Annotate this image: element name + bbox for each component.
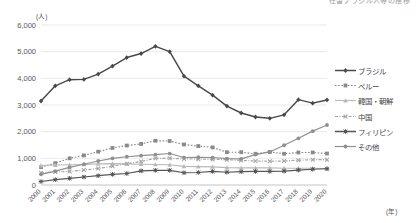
svg-text:2006: 2006 bbox=[112, 188, 128, 204]
legend-label: 中国 bbox=[358, 111, 372, 122]
svg-text:2016: 2016 bbox=[255, 188, 271, 204]
legend-label: その他 bbox=[358, 141, 379, 152]
chart-page: 在留ブラジル人等の推移 (人) (年) 01,0002,0003,0004,00… bbox=[0, 0, 416, 223]
svg-text:2019: 2019 bbox=[298, 188, 314, 204]
legend-marker-cross-icon bbox=[334, 111, 357, 122]
legend-marker-square-icon bbox=[334, 80, 357, 91]
legend-marker-diamond-icon bbox=[334, 65, 357, 76]
svg-text:1,000: 1,000 bbox=[17, 154, 36, 163]
series-1 bbox=[39, 44, 329, 121]
svg-text:2010: 2010 bbox=[169, 188, 185, 204]
legend-marker-triangle-icon bbox=[334, 95, 357, 106]
legend-label: ペルー bbox=[358, 80, 379, 91]
svg-text:2000: 2000 bbox=[26, 188, 42, 204]
legend-marker-star-icon bbox=[334, 126, 357, 137]
svg-text:2002: 2002 bbox=[55, 188, 71, 204]
svg-text:2005: 2005 bbox=[98, 188, 114, 204]
svg-text:2009: 2009 bbox=[155, 188, 171, 204]
svg-text:2004: 2004 bbox=[84, 188, 100, 204]
svg-text:2001: 2001 bbox=[41, 188, 57, 204]
svg-text:2013: 2013 bbox=[212, 188, 228, 204]
chart-legend: ブラジルペルー韓国・朝鮮中国フィリピンその他 bbox=[334, 63, 416, 154]
legend-item-4[interactable]: 中国 bbox=[334, 109, 416, 124]
legend-item-2[interactable]: ペルー bbox=[334, 78, 416, 93]
svg-text:2018: 2018 bbox=[284, 188, 300, 204]
legend-item-5[interactable]: フィリピン bbox=[334, 124, 416, 139]
svg-text:2012: 2012 bbox=[198, 188, 214, 204]
svg-text:2017: 2017 bbox=[269, 188, 285, 204]
svg-text:2014: 2014 bbox=[227, 188, 243, 204]
legend-label: ブラジル bbox=[358, 65, 386, 76]
svg-text:2015: 2015 bbox=[241, 188, 257, 204]
legend-marker-circle-icon bbox=[334, 141, 357, 152]
legend-item-6[interactable]: その他 bbox=[334, 139, 416, 154]
svg-text:5,000: 5,000 bbox=[17, 47, 36, 56]
legend-label: 韓国・朝鮮 bbox=[358, 95, 393, 106]
svg-text:4,000: 4,000 bbox=[17, 74, 36, 83]
legend-item-3[interactable]: 韓国・朝鮮 bbox=[334, 93, 416, 108]
svg-text:2,000: 2,000 bbox=[17, 127, 36, 136]
svg-text:2011: 2011 bbox=[184, 188, 199, 203]
svg-text:2020: 2020 bbox=[312, 188, 328, 204]
legend-item-1[interactable]: ブラジル bbox=[334, 63, 416, 78]
legend-label: フィリピン bbox=[358, 126, 393, 137]
svg-text:2007: 2007 bbox=[126, 188, 142, 204]
svg-text:6,000: 6,000 bbox=[17, 21, 36, 30]
svg-text:3,000: 3,000 bbox=[17, 101, 36, 110]
svg-text:2003: 2003 bbox=[69, 188, 85, 204]
svg-text:2008: 2008 bbox=[141, 188, 157, 204]
